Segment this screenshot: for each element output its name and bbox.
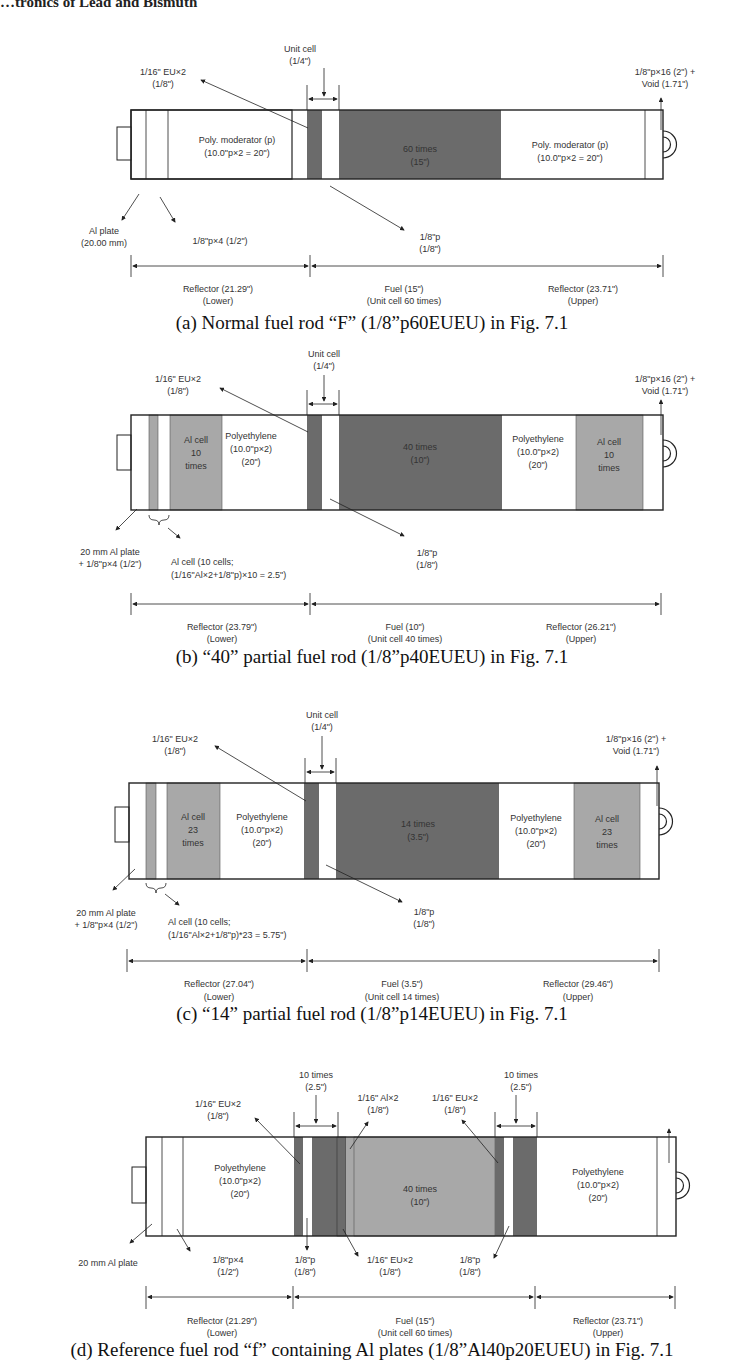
svg-text:(1/8"): (1/8") [207,1111,229,1121]
svg-text:(10.0"p×2): (10.0"p×2) [241,825,283,835]
caption-c: (c) “14” partial fuel rod (1/8”p14EUEU) … [0,1003,744,1025]
svg-text:(20"): (20") [230,1189,249,1199]
unit-cell-label: Unit cell [284,44,316,54]
poly-upper-label: Polyethylene [572,1167,624,1177]
svg-text:(15"): (15") [410,157,429,167]
svg-text:(Unit cell 60 times): (Unit cell 60 times) [378,1328,453,1338]
svg-text:(10.0"p×2): (10.0"p×2) [230,444,272,454]
poly-lower-label: Polyethylene [236,812,288,822]
panel-d-reference-fuel-rod: 10 times (2.5") 10 times (2.5") 1/16" EU… [0,1040,744,1369]
rod-diagram-d: 10 times (2.5") 10 times (2.5") 1/16" EU… [0,1040,744,1369]
svg-text:(1/8"): (1/8") [164,746,186,756]
top-right-label: 1/8"p×16 (2") + [606,734,666,744]
svg-text:(1/8"): (1/8") [444,1105,466,1115]
caption-a: (a) Normal fuel rod “F” (1/8”p60EUEU) in… [0,312,744,334]
p8-label: 1/8"p [414,907,435,917]
eu-label: 1/16" EU×2 [140,67,186,77]
svg-text:(Upper): (Upper) [593,1328,624,1338]
panel-c-14-partial-fuel-rod: Unit cell (1/4") 1/16" EU×2 (1/8") 1/8"p… [0,680,744,1040]
poly-lower-label: Polyethylene [214,1163,266,1173]
svg-text:(10.0"p×2): (10.0"p×2) [577,1180,619,1190]
eu-label: 1/16" EU×2 [155,374,201,384]
ten-times-right-label: 10 times [504,1070,539,1080]
dim-upper-reflector: Reflector (26.21") [546,622,616,632]
svg-text:(1/8"): (1/8") [294,1267,316,1277]
svg-text:(20.00 mm): (20.00 mm) [81,238,127,248]
caption-d: (d) Reference fuel rod “f” containing Al… [0,1339,744,1361]
svg-text:Void (1.71"): Void (1.71") [642,79,689,89]
svg-text:23: 23 [188,825,198,835]
svg-text:(20"): (20") [528,460,547,470]
svg-text:(20"): (20") [241,457,260,467]
eu-left-label: 1/16" EU×2 [195,1099,241,1109]
p8-label: 1/8"p [417,548,438,558]
unit-cell-label: Unit cell [308,349,340,359]
al-plate-label: 20 mm Al plate [78,1258,138,1268]
svg-text:(1/8"): (1/8") [413,919,435,929]
svg-text:Void (1.71"): Void (1.71") [613,746,660,756]
al-cell-note: Al cell (10 cells; [171,557,234,567]
svg-text:(2.5"): (2.5") [510,1082,532,1092]
panel-b-40-partial-fuel-rod: Unit cell (1/4") 1/16" EU×2 (1/8") 1/8"p… [0,340,744,670]
svg-text:(Unit cell 14 times): (Unit cell 14 times) [365,992,440,1002]
svg-text:times: times [182,838,204,848]
svg-text:(Lower): (Lower) [204,992,235,1002]
ten-times-left-label: 10 times [299,1070,334,1080]
p4-label: 1/8"p×4 [213,1255,244,1265]
top-right-label: 1/8"p×16 (2") + [635,374,695,384]
rod-diagram-b: Unit cell (1/4") 1/16" EU×2 (1/8") 1/8"p… [0,340,744,670]
svg-text:+ 1/8"p×4 (1/2"): + 1/8"p×4 (1/2") [75,920,138,930]
fuel-block-label: 60 times [403,144,438,154]
al-cell-upper-label: Al cell [595,814,619,824]
dim-fuel: Fuel (3.5") [381,979,423,989]
p8-right-label: 1/8"p [460,1255,481,1265]
svg-text:(1/8"): (1/8") [459,1267,481,1277]
lower-moderator-label: Poly. moderator (p) [199,135,275,145]
svg-text:(20"): (20") [252,838,271,848]
dim-fuel: Fuel (15") [384,284,423,294]
svg-text:(10.0"p×2 = 20"): (10.0"p×2 = 20") [204,148,269,158]
svg-text:Void (1.71"): Void (1.71") [642,386,689,396]
svg-text:(1/8"): (1/8") [416,560,438,570]
svg-text:(1/8"): (1/8") [379,1267,401,1277]
al-label: 1/16" Al×2 [358,1093,399,1103]
rod-diagram-a: Unit cell (1/4") 1/16" EU×2 (1/8") 1/8"p… [0,0,744,340]
svg-text:(20"): (20") [526,839,545,849]
svg-text:(1/4"): (1/4") [311,722,333,732]
eu-right-label: 1/16" EU×2 [432,1093,478,1103]
dim-upper-reflector: Reflector (23.71") [573,1316,643,1326]
svg-text:(10.0"p×2): (10.0"p×2) [517,447,559,457]
svg-text:(1/16"Al×2+1/8"p)*23 = 5.75"): (1/16"Al×2+1/8"p)*23 = 5.75") [168,930,286,940]
svg-text:times: times [596,840,618,850]
svg-text:(Unit cell 40 times): (Unit cell 40 times) [368,634,443,644]
svg-text:(1/4"): (1/4") [289,56,311,66]
poly-upper-label: Polyethylene [512,434,564,444]
dim-fuel: Fuel (15") [395,1316,434,1326]
svg-text:23: 23 [602,827,612,837]
al-plate-label: Al plate [89,226,119,236]
p4-label: 1/8"p×4 (1/2") [192,236,247,246]
svg-text:(Lower): (Lower) [207,634,238,644]
upper-moderator-label: Poly. moderator (p) [532,140,608,150]
fuel-block-label: 14 times [401,819,436,829]
svg-text:(Upper): (Upper) [566,634,597,644]
svg-text:(10"): (10") [410,1197,429,1207]
dim-lower-reflector: Reflector (21.29") [183,284,253,294]
al-cell-note: Al cell (10 cells; [168,917,231,927]
p8-left-label: 1/8"p [295,1255,316,1265]
unit-cell-label: Unit cell [306,710,338,720]
svg-text:(3.5"): (3.5") [407,832,429,842]
dim-upper-reflector: Reflector (23.71") [548,284,618,294]
svg-text:(Lower): (Lower) [207,1328,238,1338]
dim-lower-reflector: Reflector (27.04") [184,979,254,989]
svg-text:(Unit cell 60 times): (Unit cell 60 times) [367,296,442,306]
fuel-block-label: 40 times [403,442,438,452]
svg-text:(Upper): (Upper) [563,992,594,1002]
svg-text:times: times [185,461,207,471]
poly-upper-label: Polyethylene [510,813,562,823]
al-plate-label: 20 mm Al plate [80,547,140,557]
svg-text:10: 10 [191,448,201,458]
dim-fuel: Fuel (10") [385,622,424,632]
svg-text:(1/8"): (1/8") [152,79,174,89]
svg-text:(10.0"p×2): (10.0"p×2) [219,1176,261,1186]
